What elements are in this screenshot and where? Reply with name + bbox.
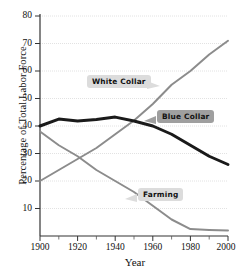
y-tick-label-60: 60: [10, 65, 32, 75]
y-tick-label-10: 10: [10, 203, 32, 213]
annotation-leaders: [125, 81, 160, 202]
x-tick-label-1980: 1980: [173, 242, 207, 252]
y-tick-label-70: 70: [10, 38, 32, 48]
y-axis-ticks: [35, 16, 40, 209]
x-tick-label-1960: 1960: [136, 242, 170, 252]
y-tick-label-80: 80: [10, 10, 32, 20]
annotation-farming: Farming: [138, 188, 183, 201]
x-axis-title: Year: [40, 256, 230, 268]
annotation-blue-collar: Blue Collar: [157, 110, 214, 123]
y-tick-label-40: 40: [10, 120, 32, 130]
y-tick-label-50: 50: [10, 93, 32, 103]
chart-canvas: [0, 0, 240, 275]
series-blue-collar: [40, 117, 228, 164]
annotation-white-collar: White Collar: [87, 75, 151, 88]
axis-lines: [40, 14, 228, 236]
y-tick-label-20: 20: [10, 175, 32, 185]
x-axis-ticks: [40, 236, 228, 241]
x-tick-label-1940: 1940: [98, 242, 132, 252]
x-tick-label-2000: 2000: [209, 242, 240, 252]
y-tick-label-30: 30: [10, 148, 32, 158]
x-tick-label-1920: 1920: [61, 242, 95, 252]
x-tick-label-1900: 1900: [23, 242, 57, 252]
chart-figure: Percentage of Total Labor Force Year 80 …: [0, 0, 240, 275]
